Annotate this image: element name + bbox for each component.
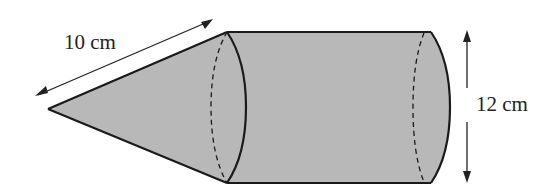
- arrowhead-icon: [463, 30, 471, 42]
- arrowhead-icon: [463, 171, 471, 183]
- diameter-label: 12 cm: [476, 92, 528, 117]
- arrowhead-icon: [35, 86, 48, 96]
- composite-solid-diagram: [0, 0, 542, 192]
- slant-height-label: 10 cm: [64, 30, 116, 55]
- cylinder-body: [227, 32, 450, 183]
- arrowhead-icon: [201, 19, 213, 29]
